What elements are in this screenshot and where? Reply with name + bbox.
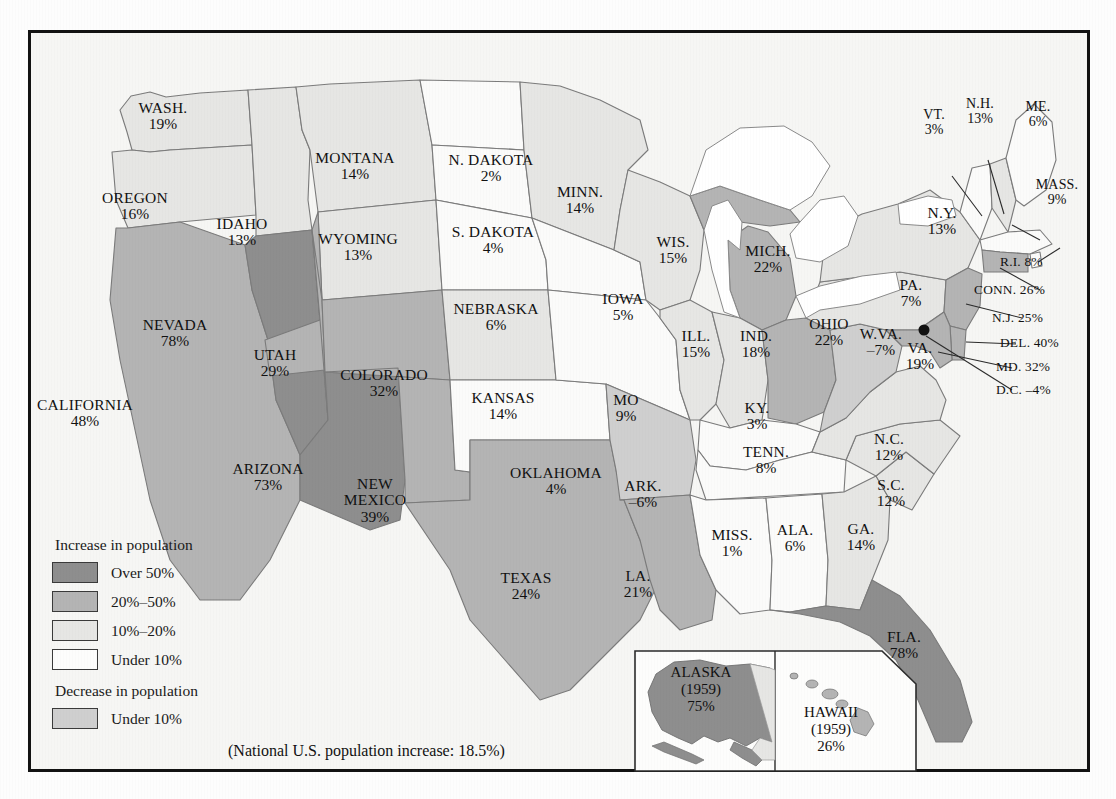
label-massachusetts-name: MASS.: [1024, 178, 1090, 193]
inset-alaska-year: (1959): [681, 681, 721, 697]
label-tennessee-value: 8%: [726, 460, 806, 476]
label-louisiana: LA. 21%: [606, 568, 670, 601]
label-mississippi-value: 1%: [694, 543, 770, 559]
label-indiana: IND. 18%: [723, 328, 789, 361]
label-louisiana-name: LA.: [606, 568, 670, 584]
label-illinois-name: ILL.: [664, 328, 728, 344]
label-kansas: KANSAS 14%: [451, 390, 555, 423]
label-maine: ME. 6%: [1014, 100, 1062, 129]
legend-swatch-10-20: [52, 620, 98, 641]
legend-item-10-20[interactable]: 10%–20%: [52, 617, 198, 644]
label-south-carolina-value: 12%: [860, 493, 922, 509]
label-wyoming-name: WYOMING: [298, 231, 418, 247]
label-new-mexico-name1: NEW: [320, 476, 430, 492]
label-michigan-value: 22%: [726, 259, 810, 275]
label-massachusetts-value: 9%: [1024, 193, 1090, 208]
label-new-mexico: NEW MEXICO 39%: [320, 476, 430, 525]
label-maine-name: ME.: [1014, 100, 1062, 115]
label-utah-value: 29%: [230, 363, 320, 379]
label-iowa-value: 5%: [582, 307, 664, 323]
label-new-jersey-text: N.J. 25%: [992, 311, 1043, 325]
label-vermont: VT. 3%: [912, 108, 956, 137]
label-south-carolina: S.C. 12%: [860, 477, 922, 510]
label-oklahoma-value: 4%: [496, 481, 616, 497]
label-mississippi: MISS. 1%: [694, 527, 770, 560]
dc-dot[interactable]: [919, 325, 930, 336]
legend-swatch-under-10: [52, 649, 98, 670]
legend-label-10-20: 10%–20%: [111, 622, 176, 640]
label-connecticut: CONN. 26%: [974, 283, 1045, 297]
label-new-york: N.Y. 13%: [910, 205, 974, 238]
label-illinois-value: 15%: [664, 344, 728, 360]
label-washington-value: 19%: [108, 116, 218, 132]
inset-hawaii-name: HAWAII: [804, 704, 858, 720]
label-arizona-name: ARIZONA: [214, 461, 322, 477]
inset-label-alaska: ALASKA (1959) 75%: [646, 664, 756, 714]
label-alabama: ALA. 6%: [760, 522, 830, 555]
label-idaho: IDAHO 13%: [197, 216, 287, 249]
label-oregon-value: 16%: [80, 206, 190, 222]
label-arizona-value: 73%: [214, 477, 322, 493]
label-north-carolina: N.C. 12%: [858, 431, 920, 464]
state-montana[interactable]: [296, 80, 436, 212]
label-arkansas: ARK. –6%: [605, 478, 681, 511]
label-rhode-island-text: R.I. 8%: [1000, 255, 1043, 269]
label-district-of-columbia: D.C. –4%: [996, 383, 1051, 397]
label-texas: TEXAS 24%: [479, 570, 573, 603]
label-minnesota-name: MINN.: [538, 184, 622, 200]
label-michigan-name: MICH.: [726, 243, 810, 259]
label-utah-name: UTAH: [230, 347, 320, 363]
legend-item-decrease-under-10[interactable]: Under 10%: [52, 705, 198, 732]
label-west-virginia-name: W.VA.: [843, 326, 919, 342]
legend-item-over-50[interactable]: Over 50%: [52, 559, 198, 586]
inset-hawaii-value: 26%: [817, 738, 845, 754]
label-texas-name: TEXAS: [479, 570, 573, 586]
label-delaware: DEL. 40%: [1000, 336, 1059, 350]
state-north-dakota[interactable]: [420, 80, 524, 150]
label-minnesota: MINN. 14%: [538, 184, 622, 217]
label-south-carolina-name: S.C.: [860, 477, 922, 493]
label-mississippi-name: MISS.: [694, 527, 770, 543]
label-montana-name: MONTANA: [292, 150, 418, 166]
label-minnesota-value: 14%: [538, 200, 622, 216]
label-texas-value: 24%: [479, 586, 573, 602]
legend-item-20-50[interactable]: 20%–50%: [52, 588, 198, 615]
label-wyoming-value: 13%: [298, 247, 418, 263]
label-new-mexico-value: 39%: [320, 509, 430, 525]
legend-item-under-10[interactable]: Under 10%: [52, 646, 198, 673]
label-montana-value: 14%: [292, 166, 418, 182]
alaska-hawaii-inset: ALASKA (1959) 75% HAWAII (1959) 26%: [634, 650, 917, 772]
label-north-carolina-value: 12%: [858, 447, 920, 463]
label-arkansas-value: –6%: [605, 494, 681, 510]
legend-decrease-title: Decrease in population: [55, 682, 198, 700]
label-wyoming: WYOMING 13%: [298, 231, 418, 264]
legend-swatch-over-50: [52, 562, 98, 583]
label-illinois: ILL. 15%: [664, 328, 728, 361]
label-missouri-value: 9%: [593, 408, 659, 424]
legend-label-20-50: 20%–50%: [111, 593, 176, 611]
label-iowa-name: IOWA: [582, 291, 664, 307]
label-nevada: NEVADA 78%: [125, 317, 225, 350]
label-west-virginia-value: –7%: [843, 342, 919, 358]
label-arkansas-name: ARK.: [605, 478, 681, 494]
label-maryland: MD. 32%: [996, 360, 1050, 374]
label-new-hampshire-value: 13%: [954, 112, 1006, 127]
label-west-virginia: W.VA. –7%: [843, 326, 919, 359]
label-maryland-text: MD. 32%: [996, 360, 1050, 374]
label-tennessee-name: TENN.: [726, 444, 806, 460]
label-pennsylvania: PA. 7%: [885, 277, 937, 310]
label-washington-name: WASH.: [108, 100, 218, 116]
label-vermont-value: 3%: [912, 123, 956, 138]
label-wisconsin-name: WIS.: [637, 234, 709, 250]
label-connecticut-text: CONN. 26%: [974, 283, 1045, 297]
label-massachusetts: MASS. 9%: [1024, 178, 1090, 207]
label-nebraska-value: 6%: [437, 317, 555, 333]
state-massachusetts[interactable]: [980, 230, 1052, 254]
label-georgia-name: GA.: [830, 521, 892, 537]
inset-label-hawaii: HAWAII (1959) 26%: [782, 704, 880, 754]
national-increase-caption: (National U.S. population increase: 18.5…: [228, 742, 505, 760]
legend-swatch-20-50: [52, 591, 98, 612]
label-north-dakota-value: 2%: [430, 168, 552, 184]
label-indiana-value: 18%: [723, 344, 789, 360]
legend-swatch-decrease-under-10: [52, 708, 98, 729]
